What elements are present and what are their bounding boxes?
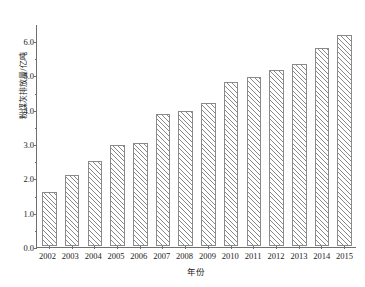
bar-2009[interactable] [201,103,216,246]
bar-slot [174,25,197,246]
y-axis-tick-labels: 0.01.02.03.04.05.06.0 [8,0,34,287]
y-axis-minor-tick-mark [35,197,37,198]
bar-slot [38,25,61,246]
x-axis-tick-mark [344,246,345,249]
x-axis-tick-label: 2003 [59,251,82,261]
y-axis-tick-mark [34,214,37,215]
x-axis-tick-mark [72,246,73,249]
y-axis-tick-mark [34,145,37,146]
x-axis-tick-slot: 2004 [82,251,105,261]
y-axis-tick-label: 2.0 [23,175,34,184]
x-axis-tick-slot: 2006 [127,251,150,261]
bar-2011[interactable] [247,77,262,246]
y-axis-minor-tick-mark [35,162,37,163]
x-axis-tick-label: 2012 [265,251,288,261]
x-axis-tick-mark [231,246,232,249]
x-axis-tick-slot: 2010 [219,251,242,261]
x-axis-tick-mark [321,246,322,249]
bar-2010[interactable] [224,82,239,246]
x-axis-tick-label: 2009 [196,251,219,261]
bar-2004[interactable] [88,161,103,246]
bar-slot [311,25,334,246]
bar-slot [242,25,265,246]
x-axis-tick-slot: 2002 [36,251,59,261]
x-axis-title: 年份 [36,265,356,277]
bar-2002[interactable] [42,192,57,246]
bar-2015[interactable] [337,35,352,246]
y-axis-tick-label: 3.0 [23,141,34,150]
y-axis-tick-label: 1.0 [23,209,34,218]
bar-2013[interactable] [292,64,307,246]
x-axis-tick-label: 2007 [150,251,173,261]
x-axis-tick-label: 2006 [127,251,150,261]
x-axis-tick-mark [253,246,254,249]
bar-slot [288,25,311,246]
bar-2003[interactable] [65,175,80,246]
x-axis-tick-slot: 2013 [287,251,310,261]
bar-series [38,25,356,246]
bar-slot [333,25,356,246]
x-axis-tick-slot: 2009 [196,251,219,261]
y-axis-tick-mark [34,248,37,249]
bar-slot [129,25,152,246]
plot-area [36,25,356,248]
x-axis-tick-label: 2015 [333,251,356,261]
bar-2007[interactable] [156,114,171,246]
y-axis-tick-label: 0.0 [23,244,34,253]
x-axis-tick-mark [94,246,95,249]
bar-slot [220,25,243,246]
y-axis-minor-tick-mark [35,128,37,129]
x-axis-tick-label: 2013 [287,251,310,261]
x-axis-tick-mark [140,246,141,249]
x-axis-tick-mark [276,246,277,249]
x-axis-tick-label: 2008 [173,251,196,261]
y-axis-tick-mark [34,179,37,180]
bar-2012[interactable] [269,70,284,246]
x-axis-tick-label: 2014 [310,251,333,261]
x-axis-tick-slot: 2012 [265,251,288,261]
bar-2014[interactable] [315,48,330,246]
y-axis-tick-label: 5.0 [23,72,34,81]
bar-2008[interactable] [178,111,193,246]
x-axis-tick-slot: 2007 [150,251,173,261]
y-axis-minor-tick-mark [35,231,37,232]
x-axis-tick-mark [49,246,50,249]
y-axis-minor-tick-mark [35,94,37,95]
y-axis-tick-label: 4.0 [23,107,34,116]
bar-slot [152,25,175,246]
y-axis-minor-tick-mark [35,59,37,60]
y-axis-tick-mark [34,42,37,43]
bar-2006[interactable] [133,143,148,246]
x-axis-tick-label: 2005 [105,251,128,261]
x-axis-tick-mark [208,246,209,249]
x-axis-tick-label: 2004 [82,251,105,261]
x-axis-tick-mark [117,246,118,249]
y-axis-tick-mark [34,111,37,112]
y-axis-tick-label: 6.0 [23,38,34,47]
x-axis-tick-labels: 2002200320042005200620072008200920102011… [36,251,356,261]
bar-slot [61,25,84,246]
x-axis-tick-slot: 2008 [173,251,196,261]
bar-slot [106,25,129,246]
x-axis-tick-label: 2011 [242,251,265,261]
bar-slot [265,25,288,246]
x-axis-tick-mark [162,246,163,249]
x-axis-tick-slot: 2011 [242,251,265,261]
bar-slot [197,25,220,246]
bar-slot [83,25,106,246]
x-axis-tick-label: 2010 [219,251,242,261]
x-axis-tick-slot: 2003 [59,251,82,261]
bar-chart-figure: 粉煤灰排放量/亿吨 0.01.02.03.04.05.06.0 20022003… [0,0,365,287]
x-axis-tick-mark [185,246,186,249]
x-axis-tick-slot: 2015 [333,251,356,261]
y-axis-tick-mark [34,76,37,77]
x-axis-tick-slot: 2014 [310,251,333,261]
x-axis-tick-label: 2002 [36,251,59,261]
x-axis-tick-mark [299,246,300,249]
x-axis-tick-slot: 2005 [105,251,128,261]
bar-2005[interactable] [110,145,125,246]
